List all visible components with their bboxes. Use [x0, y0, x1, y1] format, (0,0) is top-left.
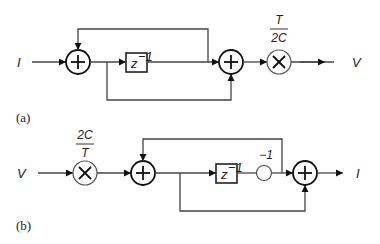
adder-b1 — [131, 161, 155, 185]
gain-numerator-b: 2C — [76, 128, 93, 142]
delay-label-a: z — [130, 56, 138, 71]
gain-multiplier-b — [73, 161, 97, 185]
caption-b: (b) — [16, 218, 31, 233]
output-label-b: I — [356, 166, 360, 181]
inverter-label-b: −1 — [259, 148, 273, 162]
gain-fraction-a: T 2C — [270, 13, 288, 45]
gain-numerator-a: T — [275, 13, 284, 27]
output-label-a: V — [352, 55, 362, 70]
input-label-a: I — [17, 55, 21, 70]
adder-a2 — [219, 50, 243, 74]
diagram-b: V 2C T z −1 — [16, 128, 360, 233]
gain-fraction-b: 2C T — [76, 128, 94, 160]
adder-b2 — [293, 161, 317, 185]
delay-block-a: z −1 — [126, 49, 153, 72]
inverter-node-b: −1 — [257, 148, 273, 181]
delay-label-b: z — [220, 167, 228, 182]
diagram-a: I z −1 — [16, 13, 362, 125]
gain-denominator-a: 2C — [270, 31, 287, 45]
gain-multiplier-a — [267, 50, 291, 74]
delay-block-b: z −1 — [216, 160, 243, 183]
gain-denominator-b: T — [81, 146, 90, 160]
caption-a: (a) — [16, 110, 30, 125]
block-diagram: I z −1 — [0, 0, 380, 244]
input-label-b: V — [17, 166, 27, 181]
bypass-wire-b — [180, 173, 305, 211]
adder-a1 — [66, 50, 90, 74]
